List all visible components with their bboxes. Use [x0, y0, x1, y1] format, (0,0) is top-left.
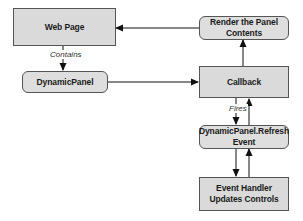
- node-render-panel-contents: Render the Panel Contents: [199, 16, 289, 40]
- node-callback: Callback: [199, 66, 289, 98]
- node-event-handler-label: Event Handler Updates Controls: [209, 183, 278, 205]
- node-event-handler: Event Handler Updates Controls: [199, 177, 289, 211]
- node-callback-label: Callback: [227, 77, 261, 88]
- node-dynamic-panel: DynamicPanel: [22, 71, 108, 93]
- node-web-page-label: Web Page: [45, 22, 85, 33]
- node-refresh-event: DynamicPanel.Refresh Event: [199, 125, 289, 149]
- node-web-page: Web Page: [13, 8, 116, 46]
- node-render-label: Render the Panel Contents: [210, 17, 278, 39]
- node-refresh-event-label: DynamicPanel.Refresh Event: [199, 126, 289, 148]
- edge-label-fires: Fires: [228, 104, 248, 113]
- edge-label-contains: Contains: [49, 50, 83, 59]
- node-dynamic-panel-label: DynamicPanel: [37, 77, 94, 88]
